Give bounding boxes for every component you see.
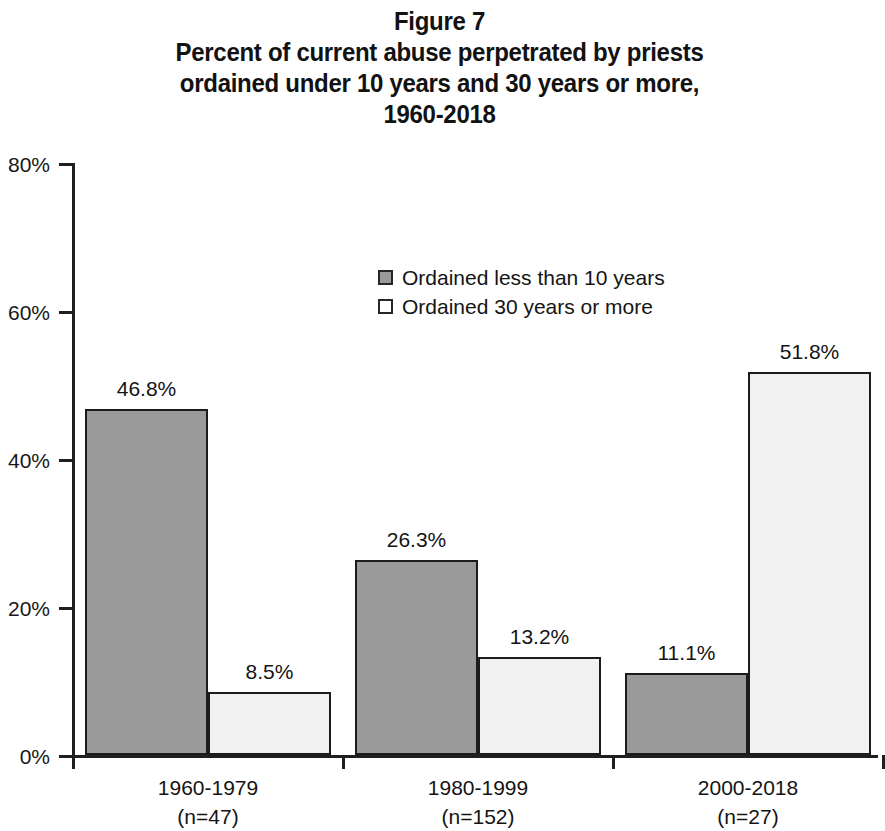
bar-0-series-0: [85, 409, 208, 755]
chart-title-line-2: Percent of current abuse perpetrated by …: [18, 37, 862, 68]
category-name-1: 1980-1999: [428, 773, 528, 802]
category-sample-size-1: (n=152): [428, 802, 528, 831]
category-name-0: 1960-1979: [158, 773, 258, 802]
y-axis-tick-1: 20%: [59, 607, 72, 610]
y-axis-tick-2: 40%: [59, 459, 72, 462]
x-axis-tick-2: [612, 755, 615, 769]
bar-value-label-0-series-0: 46.8%: [117, 377, 177, 401]
bar-value-label-0-series-1: 8.5%: [246, 660, 294, 684]
x-axis-spine: [72, 755, 878, 758]
chart-title-line-1: Figure 7: [18, 6, 862, 37]
x-axis-category-label-2: 2000-2018(n=27): [698, 773, 798, 831]
y-axis-tick-label-2: 40%: [8, 449, 50, 473]
category-name-2: 2000-2018: [698, 773, 798, 802]
x-axis-category-label-1: 1980-1999(n=152): [428, 773, 528, 831]
y-axis-tick-label-3: 60%: [8, 301, 50, 325]
y-axis-tick-label-4: 80%: [8, 153, 50, 177]
bar-value-label-2-series-0: 11.1%: [658, 641, 716, 665]
x-axis-category-label-0: 1960-1979(n=47): [158, 773, 258, 831]
bar-value-label-1-series-1: 13.2%: [510, 625, 570, 649]
y-axis-tick-label-0: 0%: [20, 745, 50, 769]
bar-value-label-2-series-1: 51.8%: [780, 340, 840, 364]
bar-1-series-0: [355, 560, 478, 755]
chart-title: Figure 7 Percent of current abuse perpet…: [0, 6, 879, 130]
bar-0-series-1: [208, 692, 331, 755]
y-axis-tick-label-1: 20%: [8, 597, 50, 621]
y-axis-tick-0: 0%: [59, 755, 72, 758]
chart-title-line-4: 1960-2018: [18, 99, 862, 130]
y-axis-spine: [72, 163, 75, 755]
chart-title-line-3: ordained under 10 years and 30 years or …: [18, 68, 862, 99]
bar-value-label-1-series-0: 26.3%: [387, 528, 447, 552]
plot-area: 0%20%40%60%80% 46.8%8.5%26.3%13.2%11.1%5…: [72, 163, 878, 755]
y-axis-tick-4: 80%: [59, 163, 72, 166]
category-sample-size-0: (n=47): [158, 802, 258, 831]
bar-2-series-0: [625, 673, 748, 755]
category-sample-size-2: (n=27): [698, 802, 798, 831]
bar-2-series-1: [748, 372, 871, 755]
bar-1-series-1: [478, 657, 601, 755]
y-axis-tick-3: 60%: [59, 311, 72, 314]
x-axis-tick-0: [72, 755, 75, 769]
x-axis-tick-1: [342, 755, 345, 769]
